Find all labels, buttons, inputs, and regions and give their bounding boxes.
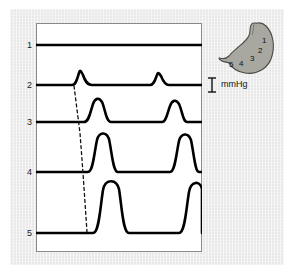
stomach-site-5: 5 bbox=[229, 61, 233, 69]
axis-label-5: 5 bbox=[18, 229, 32, 238]
stomach-icon bbox=[218, 21, 280, 77]
trace-channel-4 bbox=[36, 133, 202, 172]
stomach-site-1: 1 bbox=[262, 37, 266, 45]
mmHg-label: mmHg bbox=[221, 80, 248, 89]
stomach-site-2: 2 bbox=[258, 47, 262, 55]
axis-label-2: 2 bbox=[18, 81, 32, 90]
trace-channel-2 bbox=[36, 71, 202, 85]
trace-channel-3 bbox=[36, 99, 202, 122]
pressure-traces bbox=[36, 23, 202, 252]
stomach-outline bbox=[219, 23, 273, 73]
trace-channel-5 bbox=[36, 181, 202, 233]
axis-label-3: 3 bbox=[18, 118, 32, 127]
manometry-figure: 1 2 3 4 5 mmHg bbox=[0, 0, 294, 273]
stomach-site-3: 3 bbox=[250, 55, 254, 63]
stomach-site-4: 4 bbox=[239, 60, 243, 68]
axis-label-1: 1 bbox=[18, 41, 32, 50]
axis-label-4: 4 bbox=[18, 168, 32, 177]
mmHg-calibration-bar bbox=[206, 76, 218, 94]
propagation-line bbox=[74, 86, 87, 232]
